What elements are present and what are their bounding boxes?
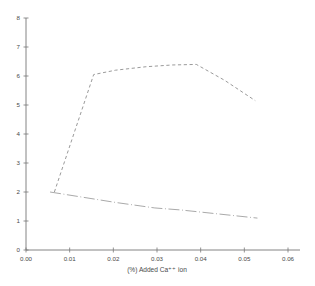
x-tick-label: 0.06	[282, 255, 295, 262]
y-tick-label: 1	[17, 217, 21, 224]
x-tick-label: 0.05	[238, 255, 251, 262]
chart-figure: 0123456780.000.010.020.030.040.050.06 (%…	[0, 0, 315, 286]
x-tick-label: 0.00	[20, 255, 33, 262]
y-tick-label: 3	[17, 159, 21, 166]
y-tick-label: 4	[17, 130, 21, 137]
series-group	[50, 64, 257, 218]
x-tick-label: 0.02	[107, 255, 120, 262]
x-axis-title: (%) Added Ca⁺⁺ ion	[127, 266, 187, 274]
y-tick-label: 8	[17, 14, 21, 21]
tick-labels-group: 0123456780.000.010.020.030.040.050.06	[17, 14, 295, 262]
series-lower-dashdot-line	[50, 192, 257, 218]
x-tick-label: 0.01	[64, 255, 77, 262]
axes-group	[24, 18, 301, 253]
x-tick-label: 0.04	[195, 255, 208, 262]
y-tick-label: 0	[17, 246, 21, 253]
series-upper-dashed-curve	[54, 64, 255, 192]
y-tick-label: 2	[17, 188, 21, 195]
y-tick-label: 7	[17, 43, 21, 50]
y-tick-label: 6	[17, 72, 21, 79]
y-tick-label: 5	[17, 101, 21, 108]
x-tick-label: 0.03	[151, 255, 164, 262]
chart-canvas: 0123456780.000.010.020.030.040.050.06 (%…	[0, 0, 315, 286]
